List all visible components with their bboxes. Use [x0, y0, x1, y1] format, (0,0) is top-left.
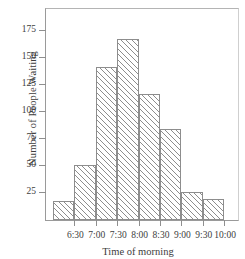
bar-bin-1 — [53, 201, 74, 220]
bar-bin-7 — [181, 192, 202, 220]
y-tick-label-50: 50 — [27, 159, 37, 169]
y-tick-label-100: 100 — [22, 105, 36, 115]
x-tick-1: 6:30 — [74, 220, 75, 226]
x-tick-8: 10:00 — [224, 220, 225, 226]
bar-bin-4 — [117, 39, 138, 220]
x-tick-6: 9:00 — [181, 220, 182, 226]
plot-area: 175 150 125 100 75 50 25 6:30 — [45, 8, 239, 221]
x-tick-2: 7:00 — [96, 220, 97, 226]
y-tick-label-75: 75 — [27, 132, 37, 142]
x-tick-label-6: 9:00 — [174, 230, 191, 240]
y-tick-50: 50 — [39, 165, 46, 166]
histogram-figure: Number of People Waiting 175 150 125 100… — [0, 0, 245, 259]
x-axis-title: Time of morning — [38, 246, 238, 257]
x-tick-label-5: 8:30 — [153, 230, 170, 240]
bar-bin-2 — [74, 165, 95, 220]
x-tick-label-8: 10:00 — [214, 230, 236, 240]
x-tick-4: 8:00 — [139, 220, 140, 226]
x-tick-label-7: 9:30 — [195, 230, 212, 240]
y-tick-label-150: 150 — [22, 51, 36, 61]
x-tick-3: 7:30 — [117, 220, 118, 226]
x-tick-label-3: 7:30 — [110, 230, 127, 240]
bar-bin-8 — [203, 199, 224, 220]
bar-bin-6 — [160, 129, 181, 220]
x-tick-label-1: 6:30 — [67, 230, 84, 240]
y-tick-label-25: 25 — [27, 186, 37, 196]
y-tick-75: 75 — [39, 138, 46, 139]
x-tick-5: 8:30 — [160, 220, 161, 226]
x-tick-7: 9:30 — [203, 220, 204, 226]
bar-bin-5 — [139, 94, 160, 220]
y-tick-100: 100 — [39, 111, 46, 112]
y-tick-label-175: 175 — [22, 24, 36, 34]
bar-bin-3 — [96, 67, 117, 221]
y-tick-125: 125 — [39, 84, 46, 85]
y-tick-150: 150 — [39, 57, 46, 58]
y-tick-25: 25 — [39, 192, 46, 193]
y-tick-label-125: 125 — [22, 78, 36, 88]
x-tick-label-2: 7:00 — [88, 230, 105, 240]
y-tick-175: 175 — [39, 30, 46, 31]
x-tick-label-4: 8:00 — [131, 230, 148, 240]
